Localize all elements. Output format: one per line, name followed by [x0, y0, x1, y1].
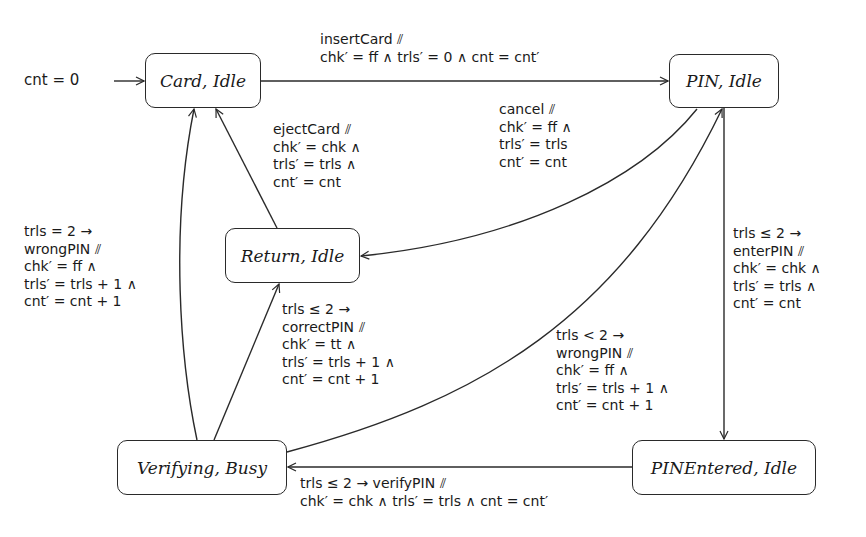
- label-line: insertCard ⫽: [320, 31, 540, 49]
- label-line: wrongPIN ⫽: [24, 241, 137, 259]
- state-card-idle: Card, Idle: [145, 53, 261, 108]
- state-diagram: cnt = 0 Card, Idle PIN, Idle Return, Idl…: [0, 0, 866, 537]
- label-insert-card: insertCard ⫽ chk′ = ff ∧ trls′ = 0 ∧ cnt…: [320, 31, 540, 66]
- label-line: ejectCard ⫽: [273, 121, 361, 139]
- label-line: trls ≤ 2 → verifyPIN ⫽: [300, 475, 548, 493]
- label-line: trls′ = trls + 1 ∧: [282, 354, 395, 372]
- label-line: chk′ = ff ∧: [24, 258, 137, 276]
- label-line: cancel ⫽: [499, 101, 572, 119]
- state-verifying-busy: Verifying, Busy: [117, 440, 287, 495]
- label-line: enterPIN ⫽: [733, 243, 821, 261]
- edge-correct-pin: [214, 284, 279, 440]
- label-verify-pin: trls ≤ 2 → verifyPIN ⫽ chk′ = chk ∧ trls…: [300, 475, 548, 510]
- label-line: cnt′ = cnt + 1: [24, 293, 137, 311]
- label-line: chk′ = ff ∧: [556, 362, 669, 380]
- label-line: chk′ = chk ∧: [733, 260, 821, 278]
- label-cancel: cancel ⫽ chk′ = ff ∧ trls′ = trls cnt′ =…: [499, 101, 572, 171]
- label-line: trls′ = trls ∧: [273, 156, 361, 174]
- label-wrong-pin-final: trls = 2 → wrongPIN ⫽ chk′ = ff ∧ trls′ …: [24, 223, 137, 311]
- label-line: chk′ = ff ∧ trls′ = 0 ∧ cnt = cnt′: [320, 49, 540, 67]
- label-line: trls ≤ 2 →: [733, 225, 821, 243]
- edge-eject-card: [216, 109, 277, 228]
- label-line: trls < 2 →: [556, 327, 669, 345]
- label-line: chk′ = chk ∧: [273, 139, 361, 157]
- label-line: wrongPIN ⫽: [556, 345, 669, 363]
- label-line: cnt′ = cnt: [733, 295, 821, 313]
- label-line: cnt′ = cnt + 1: [556, 397, 669, 415]
- label-line: cnt′ = cnt + 1: [282, 371, 395, 389]
- label-enter-pin: trls ≤ 2 → enterPIN ⫽ chk′ = chk ∧ trls′…: [733, 225, 821, 313]
- label-line: chk′ = ff ∧: [499, 119, 572, 137]
- label-eject-card: ejectCard ⫽ chk′ = chk ∧ trls′ = trls ∧ …: [273, 121, 361, 191]
- label-line: cnt′ = cnt: [499, 154, 572, 172]
- label-line: trls = 2 →: [24, 223, 137, 241]
- state-pinentered-idle: PINEntered, Idle: [632, 440, 816, 495]
- label-line: trls′ = trls ∧: [733, 278, 821, 296]
- label-line: trls′ = trls + 1 ∧: [556, 380, 669, 398]
- state-pin-idle: PIN, Idle: [669, 54, 779, 108]
- label-correct-pin: trls ≤ 2 → correctPIN ⫽ chk′ = tt ∧ trls…: [282, 301, 395, 389]
- label-line: trls ≤ 2 →: [282, 301, 395, 319]
- label-wrong-pin-retry: trls < 2 → wrongPIN ⫽ chk′ = ff ∧ trls′ …: [556, 327, 669, 415]
- label-line: chk′ = tt ∧: [282, 336, 395, 354]
- edge-wrong-pin-final: [180, 109, 197, 440]
- label-line: cnt′ = cnt: [273, 174, 361, 192]
- label-line: chk′ = chk ∧ trls′ = trls ∧ cnt = cnt′: [300, 493, 548, 511]
- state-return-idle: Return, Idle: [225, 228, 360, 283]
- label-line: trls′ = trls: [499, 136, 572, 154]
- label-line: trls′ = trls + 1 ∧: [24, 276, 137, 294]
- initial-condition: cnt = 0: [24, 71, 79, 89]
- label-line: correctPIN ⫽: [282, 319, 395, 337]
